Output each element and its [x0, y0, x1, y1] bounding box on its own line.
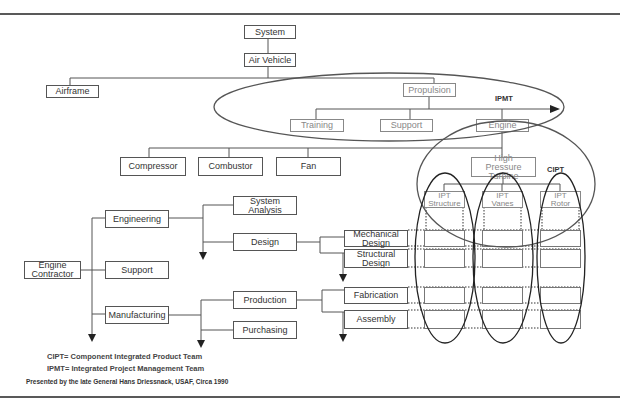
grid-cell — [424, 249, 465, 268]
support-box: Support — [105, 261, 169, 279]
support-box-top: Support — [380, 119, 433, 132]
grid-cell — [424, 287, 465, 304]
grid-cell — [482, 230, 523, 247]
engineering-box: Engineering — [105, 210, 169, 228]
purchasing-box: Purchasing — [233, 321, 297, 339]
design-box: Design — [233, 233, 297, 251]
air-vehicle-box: Air Vehicle — [244, 53, 296, 67]
engine-box: Engine — [476, 119, 529, 132]
legend-ipmt: IPMT= Integrated Project Management Team — [47, 364, 204, 373]
grid-cell — [540, 310, 581, 329]
ipt-vanes-box: IPT Vanes — [482, 191, 523, 208]
grid-cell — [482, 287, 523, 304]
system-analysis-box: System Analysis — [233, 196, 297, 215]
grid-cell — [482, 310, 523, 329]
ipt-structure-box: IPT Structure — [424, 191, 465, 208]
structural-design-box: Structural Design — [344, 249, 408, 268]
training-box: Training — [290, 119, 344, 132]
compressor-box: Compressor — [120, 157, 186, 176]
grid-cell — [482, 249, 523, 268]
assembly-box: Assembly — [344, 310, 408, 329]
grid-cell — [540, 287, 581, 304]
cipt-label: CIPT — [547, 165, 564, 174]
credit-text: Presented by the late General Hans Dries… — [26, 378, 228, 385]
grid-cell — [424, 310, 465, 329]
propulsion-box: Propulsion — [403, 83, 456, 97]
connector-lines — [0, 0, 631, 410]
mechanical-design-box: Mechanical Design — [344, 230, 408, 247]
airframe-box: Airframe — [46, 85, 99, 98]
manufacturing-box: Manufacturing — [105, 306, 169, 324]
high-pressure-turbine-box: High Pressure Turbine — [471, 157, 536, 177]
engine-contractor-box: Engine Contractor — [24, 261, 81, 279]
production-box: Production — [233, 291, 297, 309]
grid-cell — [540, 230, 581, 247]
combustor-box: Combustor — [198, 157, 263, 176]
system-box: System — [244, 25, 296, 39]
ipt-rotor-box: IPT Rotor — [540, 191, 581, 208]
grid-cell — [424, 230, 465, 247]
ipmt-label: IPMT — [495, 94, 513, 103]
legend-cipt: CIPT= Component Integrated Product Team — [47, 352, 202, 361]
fabrication-box: Fabrication — [344, 287, 408, 304]
fan-box: Fan — [276, 157, 341, 176]
grid-cell — [540, 249, 581, 268]
